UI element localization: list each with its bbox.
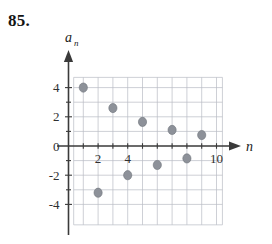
data-point	[138, 117, 146, 126]
data-point	[153, 160, 161, 169]
data-point	[198, 130, 206, 139]
data-point	[168, 125, 176, 134]
x-tick-label: 2	[95, 151, 102, 166]
y-axis-label: a	[65, 30, 72, 45]
y-axis-tick-labels: 420-2-4	[49, 80, 60, 212]
data-point	[109, 103, 117, 112]
data-point-marker	[94, 188, 102, 197]
axes	[57, 50, 241, 235]
x-axis-arrowhead	[229, 141, 241, 150]
data-point-marker	[138, 117, 146, 126]
x-axis-label: n	[246, 139, 253, 154]
figure-85: 85. 420-2-4 2410 a n n	[0, 0, 272, 244]
data-point-marker	[109, 103, 117, 112]
data-point-marker	[124, 171, 132, 180]
scatter-plot: 420-2-4 2410 a n n	[0, 0, 272, 244]
y-tick-label: 2	[53, 109, 60, 124]
y-axis-arrowhead	[64, 50, 73, 62]
y-tick-label: -2	[49, 168, 60, 183]
data-point	[79, 83, 87, 92]
data-point	[183, 154, 191, 163]
y-tick-label: 4	[53, 80, 60, 95]
data-point-marker	[79, 83, 87, 92]
data-point-marker	[183, 154, 191, 163]
y-tick-label: 0	[53, 139, 60, 154]
data-point-marker	[153, 160, 161, 169]
y-axis-label-subscript: n	[74, 38, 79, 48]
data-point	[124, 171, 132, 180]
data-point	[94, 188, 102, 197]
y-tick-label: -4	[49, 197, 60, 212]
data-point-marker	[198, 130, 206, 139]
data-point-marker	[168, 125, 176, 134]
x-tick-label: 4	[124, 151, 131, 166]
x-tick-label: 10	[210, 151, 223, 166]
